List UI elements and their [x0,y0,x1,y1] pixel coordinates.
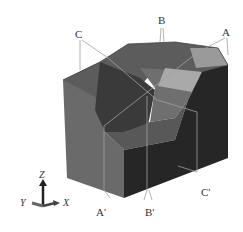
axis-triad: Z Y X [20,169,70,208]
solid-figure: C B A A' B' C' Z Y X [0,0,243,232]
label-a-prime: A' [96,206,106,218]
axis-y-label: Y [20,197,27,208]
label-b-prime: B' [145,206,154,218]
axis-x-label: X [62,197,70,208]
axis-z-label: Z [39,169,45,180]
label-c-prime: C' [201,186,210,198]
label-c: C [75,28,82,40]
highlight-top [190,48,228,68]
label-b: B [158,14,165,26]
label-a: A [222,26,230,38]
